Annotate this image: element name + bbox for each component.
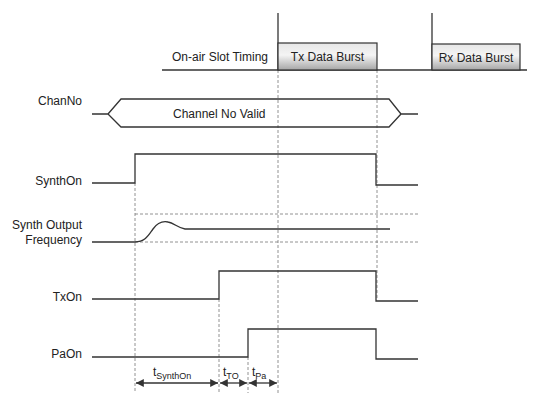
- synth-on-waveform: [92, 154, 418, 185]
- synth-on-row: SynthOn: [35, 154, 418, 188]
- slot-timing-label: On-air Slot Timing: [172, 50, 268, 64]
- interval-to-label: tTO: [223, 365, 239, 381]
- synth-freq-row: Synth Output Frequency: [12, 218, 390, 247]
- chan-no-label: ChanNo: [38, 94, 82, 108]
- synth-freq-waveform: [92, 222, 390, 242]
- chan-no-valid-label: Channel No Valid: [173, 107, 266, 121]
- rx-burst-label: Rx Data Burst: [439, 51, 514, 65]
- tx-on-label: TxOn: [53, 290, 82, 304]
- tx-on-waveform: [92, 271, 418, 301]
- synth-on-label: SynthOn: [35, 174, 82, 188]
- tx-burst-label: Tx Data Burst: [291, 50, 365, 64]
- tx-on-row: TxOn: [53, 271, 418, 304]
- synth-freq-label-line1: Synth Output: [12, 218, 83, 232]
- slot-timing-row: On-air Slot Timing Tx Data Burst Rx Data…: [162, 13, 527, 70]
- interval-synth-on-label: tSynthOn: [153, 365, 191, 381]
- chan-no-row: ChanNo Channel No Valid: [38, 94, 418, 127]
- interval-pa-label: tPa: [252, 365, 266, 381]
- pa-on-row: PaOn: [51, 329, 418, 361]
- timing-diagram: On-air Slot Timing Tx Data Burst Rx Data…: [0, 0, 540, 409]
- interval-annotations: tSynthOn tTO tPa: [136, 365, 277, 383]
- pa-on-waveform: [92, 329, 418, 359]
- synth-freq-label-line2: Frequency: [25, 233, 82, 247]
- pa-on-label: PaOn: [51, 347, 82, 361]
